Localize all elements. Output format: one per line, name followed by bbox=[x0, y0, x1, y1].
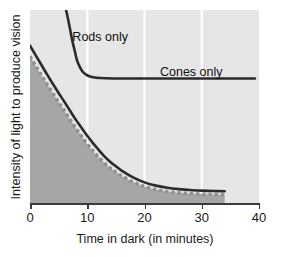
x-tick-10 bbox=[87, 203, 89, 209]
x-tick-label-40: 40 bbox=[244, 210, 274, 225]
rods-only-label: Rods only bbox=[72, 30, 128, 44]
cones-only-label: Cones only bbox=[160, 65, 223, 79]
dark-adaptation-chart: Rods only Cones only 0 10 20 30 40 Time … bbox=[0, 0, 291, 257]
x-tick-0 bbox=[30, 203, 32, 209]
y-axis-title: Intensity of light to produce vision bbox=[9, 7, 23, 207]
y-axis-title-wrapper: Intensity of light to produce vision bbox=[0, 0, 26, 200]
x-tick-label-20: 20 bbox=[130, 210, 160, 225]
chart-canvas bbox=[30, 10, 259, 203]
x-tick-20 bbox=[145, 203, 147, 209]
x-tick-label-10: 10 bbox=[72, 210, 102, 225]
x-tick-label-30: 30 bbox=[187, 210, 217, 225]
x-tick-40 bbox=[259, 203, 261, 209]
x-axis-title: Time in dark (in minutes) bbox=[30, 232, 260, 246]
x-tick-label-0: 0 bbox=[15, 210, 45, 225]
plot-area bbox=[30, 10, 259, 203]
x-tick-30 bbox=[202, 203, 204, 209]
